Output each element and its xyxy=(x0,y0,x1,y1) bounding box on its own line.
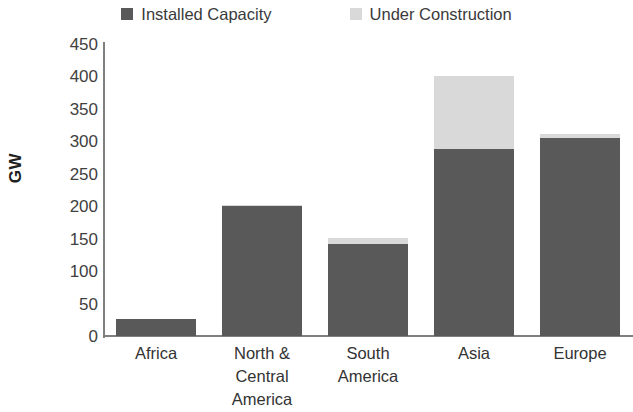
bar-series-container xyxy=(103,44,633,336)
y-axis-tick-label: 200 xyxy=(34,198,98,215)
x-axis-tick-label-south-america: SouthAmerica xyxy=(315,340,421,412)
bar-stack[interactable] xyxy=(116,319,196,336)
y-axis-tick-label: 0 xyxy=(34,328,98,345)
x-axis-tick-label-line: America xyxy=(315,365,421,388)
bar-slot-africa xyxy=(103,44,209,336)
y-axis-tick-labels: 450 400 350 300 250 200 150 100 50 0 xyxy=(28,0,98,412)
legend-label-under-construction: Under Construction xyxy=(370,6,512,23)
bar-segment-installed-capacity[interactable] xyxy=(116,319,196,336)
x-axis-tick-label-line: America xyxy=(209,388,315,411)
y-axis-tick-label: 250 xyxy=(34,165,98,182)
y-axis-tick-label: 50 xyxy=(34,295,98,312)
legend-swatch-installed-capacity xyxy=(121,8,133,20)
y-axis-tick-label: 350 xyxy=(34,100,98,117)
bar-stack[interactable] xyxy=(222,205,302,336)
x-axis-tick-label-line: Europe xyxy=(527,342,633,365)
x-axis-tick-label-line: Central xyxy=(209,365,315,388)
bar-segment-installed-capacity[interactable] xyxy=(434,149,514,336)
bar-segment-installed-capacity[interactable] xyxy=(328,244,408,336)
bar-slot-south-america xyxy=(315,44,421,336)
bar-segment-installed-capacity[interactable] xyxy=(222,206,302,336)
y-axis-tick-label: 450 xyxy=(34,36,98,53)
x-axis-tick-label-north-central-america: North &CentralAmerica xyxy=(209,340,315,412)
x-axis-tick-label-line: South xyxy=(315,342,421,365)
y-axis-title: GW xyxy=(6,138,26,198)
y-axis-tick-label: 300 xyxy=(34,133,98,150)
legend-item-under-construction[interactable]: Under Construction xyxy=(350,6,512,23)
y-axis-tick-label: 400 xyxy=(34,68,98,85)
x-axis-tick-label-asia: Asia xyxy=(421,340,527,412)
x-axis-tick-label-africa: Africa xyxy=(103,340,209,412)
bar-slot-north-central-america xyxy=(209,44,315,336)
x-axis-tick-label-line: Africa xyxy=(103,342,209,365)
bar-segment-installed-capacity[interactable] xyxy=(540,138,620,336)
legend-item-installed-capacity[interactable]: Installed Capacity xyxy=(121,6,271,23)
y-axis-tick-label: 150 xyxy=(34,230,98,247)
bar-slot-europe xyxy=(527,44,633,336)
bar-segment-under-construction[interactable] xyxy=(434,76,514,149)
y-axis-tick-label: 100 xyxy=(34,263,98,280)
legend-label-installed-capacity: Installed Capacity xyxy=(141,6,271,23)
bar-stack[interactable] xyxy=(328,238,408,336)
bar-stack[interactable] xyxy=(434,76,514,336)
bar-stack[interactable] xyxy=(540,134,620,336)
x-axis-tick-label-europe: Europe xyxy=(527,340,633,412)
legend-swatch-under-construction xyxy=(350,8,362,20)
bar-slot-asia xyxy=(421,44,527,336)
x-axis-tick-label-line: North & xyxy=(209,342,315,365)
bar-chart: Installed Capacity Under Construction GW… xyxy=(0,0,633,412)
x-axis-tick-label-line: Asia xyxy=(421,342,527,365)
x-axis-tick-labels: Africa North &CentralAmerica SouthAmeric… xyxy=(103,340,633,412)
